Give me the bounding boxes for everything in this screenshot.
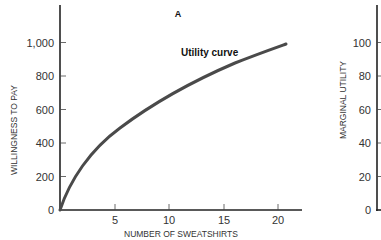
x-ticks: 5 10 15 20: [112, 204, 284, 226]
panel-b: 0 20 40 60 80 100 MARGINAL UTILITY: [338, 5, 381, 216]
y-tick-label: 0: [48, 204, 54, 216]
panel-b-y-tick-label: 20: [359, 171, 371, 183]
y-tick-label: 200: [36, 171, 54, 183]
panel-b-y-tick-label: 80: [359, 70, 371, 82]
y-tick-label: 800: [36, 70, 54, 82]
x-tick-label: 10: [163, 214, 175, 226]
panel-b-y-tick-label: 40: [359, 137, 371, 149]
y-tick-label: 1,000: [26, 37, 54, 49]
y-tick-label: 400: [36, 137, 54, 149]
panel-b-y-tick-label: 60: [359, 104, 371, 116]
utility-curve: [60, 44, 286, 210]
panel-a-title: A: [175, 9, 182, 19]
chart-canvas: A 0 200 400 600 800 1,000 5 10 15: [0, 0, 381, 240]
panel-b-y-axis-title: MARGINAL UTILITY: [338, 61, 348, 139]
x-tick-label: 20: [272, 214, 284, 226]
y-tick-label: 600: [36, 104, 54, 116]
utility-curve-label: Utility curve: [181, 47, 239, 58]
x-tick-label: 5: [112, 214, 118, 226]
y-axis-title: WILLINGNESS TO PAY: [9, 85, 19, 175]
panel-b-y-tick-label: 0: [365, 204, 371, 216]
panel-a: A 0 200 400 600 800 1,000 5 10 15: [9, 5, 302, 239]
x-axis-title: NUMBER OF SWEATSHIRTS: [124, 229, 238, 239]
panel-b-y-tick-label: 100: [353, 37, 371, 49]
x-tick-label: 15: [218, 214, 230, 226]
